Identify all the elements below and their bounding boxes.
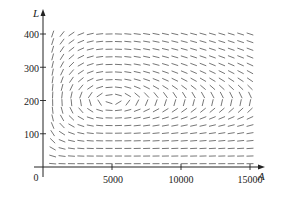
x-axis-arrow-icon (258, 165, 265, 170)
slope-segment (97, 117, 103, 118)
slope-segment (228, 125, 234, 127)
slope-segment (52, 54, 54, 60)
slope-segment (210, 117, 216, 119)
slope-segment (200, 78, 205, 81)
slope-segment (247, 140, 253, 141)
slope-segment (238, 85, 242, 89)
slope-segment (247, 63, 253, 66)
slope-segment (134, 86, 140, 88)
slope-segment (87, 133, 93, 134)
slope-segment (182, 108, 187, 112)
slope-segment (181, 117, 187, 119)
slope-segment (164, 93, 168, 98)
slope-segment (87, 33, 93, 34)
slope-segment (181, 125, 187, 126)
slope-segment (238, 71, 243, 74)
slope-segment (97, 41, 103, 42)
slope-segment (52, 62, 53, 68)
slope-segment (172, 71, 178, 73)
slope-segment (200, 41, 206, 43)
slope-segment (59, 131, 64, 134)
slope-segment (228, 133, 234, 134)
slope-segment (219, 125, 225, 126)
slope-segment (71, 92, 72, 98)
slope-segment (162, 56, 168, 58)
slope-segment (172, 78, 178, 81)
slope-segment (97, 34, 103, 35)
slope-segment (181, 56, 187, 58)
slope-segment (79, 108, 83, 113)
slope-segment (181, 48, 187, 50)
slope-segment (181, 41, 187, 43)
slope-segment (209, 33, 215, 35)
slope-segment (153, 133, 159, 134)
slope-segment (78, 63, 83, 66)
slope-segment (125, 64, 131, 65)
slope-segment (247, 78, 252, 81)
slope-segment (200, 56, 206, 58)
slope-segment (144, 79, 150, 81)
slope-segment (97, 125, 103, 126)
slope-segment (219, 63, 225, 65)
slope-segment (79, 85, 83, 90)
slope-segment (78, 125, 84, 127)
slope-segment (115, 87, 121, 88)
slope-segment (134, 64, 140, 65)
slope-segment (60, 123, 64, 127)
slope-segment (144, 125, 150, 126)
slope-segment (52, 107, 53, 113)
slope-segment (115, 110, 121, 111)
slope-segment (126, 100, 130, 105)
slope-segment (98, 100, 101, 105)
y-axis-label: L (32, 7, 39, 19)
slope-segment (200, 133, 206, 134)
slope-segment (135, 93, 140, 97)
slope-segment (191, 48, 197, 50)
slope-segment (97, 72, 103, 73)
slope-segment (247, 56, 253, 58)
slope-segment (219, 41, 225, 43)
slope-segment (247, 41, 253, 43)
slope-segment (229, 85, 234, 89)
slope-segment (70, 85, 73, 91)
slope-segment (125, 57, 131, 58)
slope-segment (125, 41, 131, 42)
slope-segment (174, 100, 176, 106)
slope-segment (172, 33, 178, 34)
slope-segment (191, 108, 196, 112)
slope-segment (145, 100, 147, 106)
slope-segment (238, 48, 244, 50)
slope-segment (228, 41, 234, 43)
slope-segment (163, 86, 168, 89)
slope-segment (248, 108, 253, 112)
slope-segment (153, 33, 159, 34)
slope-segment (125, 79, 131, 80)
slope-segment (201, 85, 206, 89)
slope-segment (78, 116, 83, 119)
slope-segment (60, 32, 64, 37)
slope-segment (219, 33, 225, 35)
slope-segment (87, 56, 93, 58)
x-tick-label-5000: 5000 (103, 174, 123, 185)
slope-segment (116, 101, 121, 104)
slope-segment (247, 71, 252, 74)
slope-segment (60, 47, 64, 52)
slope-segment (163, 79, 169, 82)
slope-segment (60, 54, 63, 59)
slope-segment (181, 33, 187, 34)
slope-segment (200, 63, 206, 65)
slope-segment (200, 141, 206, 142)
slope-segment (69, 70, 73, 75)
slope-segment (59, 156, 65, 157)
slope-segment (153, 117, 159, 119)
slope-segment (50, 139, 54, 143)
slope-segment (87, 71, 93, 73)
slope-segment (202, 92, 205, 97)
slope-segment (154, 93, 158, 98)
slope-segment (153, 125, 159, 126)
slope-segment (200, 71, 206, 74)
slope-segment (191, 78, 196, 81)
slope-segment (192, 92, 195, 97)
slope-segment (238, 125, 244, 127)
slope-segment (210, 85, 215, 89)
